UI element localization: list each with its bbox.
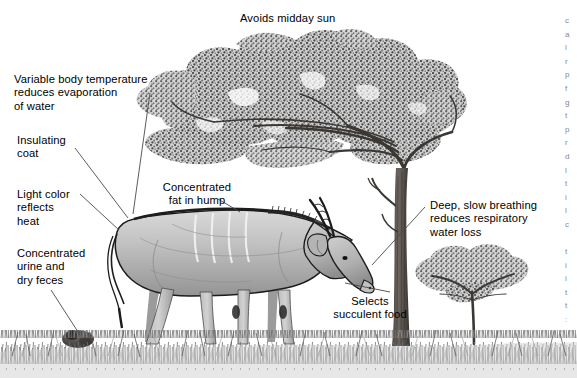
leader-concentrated-urine-dry-feces [51, 290, 80, 335]
cropped-right-margin-text: c a l r p f g t p r d l t i l c t i i t … [565, 14, 577, 327]
eland-knee-marking [232, 305, 240, 319]
label-deep-slow-breathing: Deep, slow breathing reduces respiratory… [430, 199, 537, 239]
eland-antelope [108, 198, 374, 344]
acacia-tree-background [415, 222, 528, 344]
eland-eye [342, 256, 347, 260]
label-insulating-coat: Insulating coat [17, 134, 66, 161]
label-concentrated-fat-in-hump: Concentrated fat in hump [153, 181, 241, 208]
leader-light-color-reflects-heat [80, 194, 119, 230]
label-light-color-reflects-heat: Light color reflects heat [17, 188, 70, 228]
label-concentrated-urine-dry-feces: Concentrated urine and dry feces [17, 247, 85, 287]
label-selects-succulent-food: Selects succulent food [324, 295, 416, 322]
leader-insulating-coat [75, 148, 128, 218]
label-variable-body-temperature: Variable body temperature reduces evapor… [14, 73, 148, 113]
trunk-side-branch [372, 178, 396, 206]
illustration-canvas [0, 0, 577, 378]
label-avoids-midday-sun: Avoids midday sun [240, 12, 335, 25]
figure-eland-adaptations: Avoids midday sun Variable body temperat… [0, 0, 577, 378]
savanna-grass [0, 330, 577, 378]
